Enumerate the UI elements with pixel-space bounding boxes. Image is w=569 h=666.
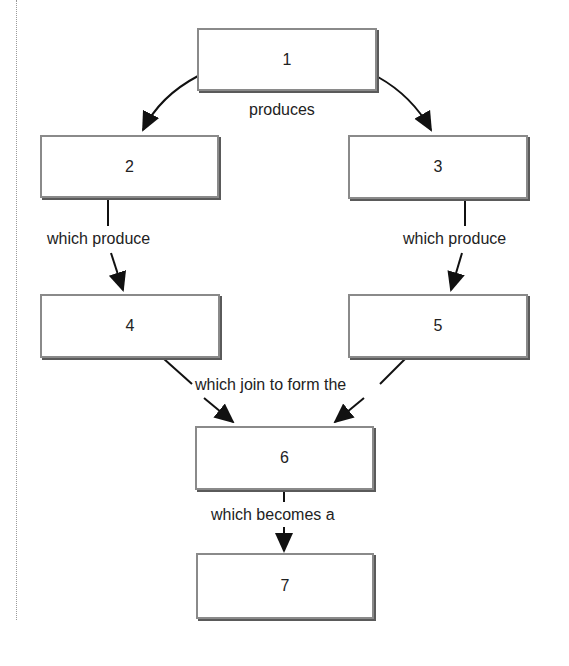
node-2: 2 — [40, 135, 219, 198]
node-6-label: 6 — [280, 449, 289, 467]
arrow-5-to-6 — [335, 398, 364, 422]
edge-label-which-becomes: which becomes a — [211, 506, 335, 524]
node-4-label: 4 — [126, 317, 135, 335]
edge-label-produces: produces — [249, 101, 315, 119]
node-3-label: 3 — [434, 158, 443, 176]
node-5: 5 — [348, 294, 528, 358]
arrow-4-to-6 — [204, 398, 233, 422]
arrow-1-to-3 — [378, 77, 431, 130]
node-1-label: 1 — [283, 51, 292, 69]
node-7-label: 7 — [281, 577, 290, 595]
edge-label-which-join: which join to form the — [195, 376, 346, 394]
node-4: 4 — [40, 294, 220, 358]
node-6: 6 — [195, 426, 374, 490]
node-1: 1 — [197, 28, 377, 91]
arrow-1-to-2 — [143, 76, 198, 130]
arrow-3-to-5 — [451, 253, 462, 290]
arrow-2-to-4 — [111, 253, 123, 290]
node-5-label: 5 — [434, 317, 443, 335]
edge-label-which-produce-left: which produce — [47, 230, 150, 248]
node-3: 3 — [348, 135, 528, 199]
node-2-label: 2 — [125, 158, 134, 176]
node-7: 7 — [196, 553, 374, 619]
edge-label-which-produce-right: which produce — [403, 230, 506, 248]
